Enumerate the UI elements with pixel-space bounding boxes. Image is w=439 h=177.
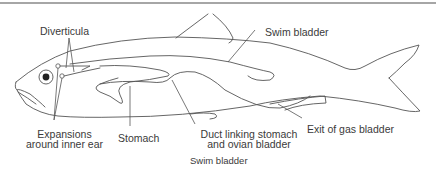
mouth-line bbox=[15, 82, 17, 90]
duct-leader bbox=[172, 80, 195, 124]
label-expansions-line2: around inner ear bbox=[22, 139, 107, 149]
label-stomach: Stomach bbox=[118, 133, 159, 143]
label-expansions: Expansions around inner ear bbox=[22, 129, 107, 149]
gill-line bbox=[18, 92, 36, 104]
duct-shape bbox=[190, 113, 217, 119]
label-exit-gas-bladder: Exit of gas bladder bbox=[307, 124, 394, 134]
label-duct-line2: and ovian bladder bbox=[189, 139, 309, 149]
swim-bladder-shape bbox=[96, 66, 169, 104]
diverticula-leader bbox=[66, 38, 74, 72]
diverticula-node-lower bbox=[60, 74, 64, 78]
swim-bladder-leader bbox=[228, 30, 255, 62]
diverticula-node-upper bbox=[56, 64, 60, 68]
eye-pupil bbox=[43, 74, 50, 81]
label-duct: Duct linking stomach and ovian bladder bbox=[189, 129, 309, 149]
label-swim-bladder: Swim bladder bbox=[265, 27, 329, 37]
label-diverticula: Diverticula bbox=[40, 26, 89, 36]
figure-caption: Swim bladder bbox=[190, 155, 248, 166]
swim-bladder-diagram: Diverticula Swim bladder Expansions arou… bbox=[0, 0, 439, 177]
